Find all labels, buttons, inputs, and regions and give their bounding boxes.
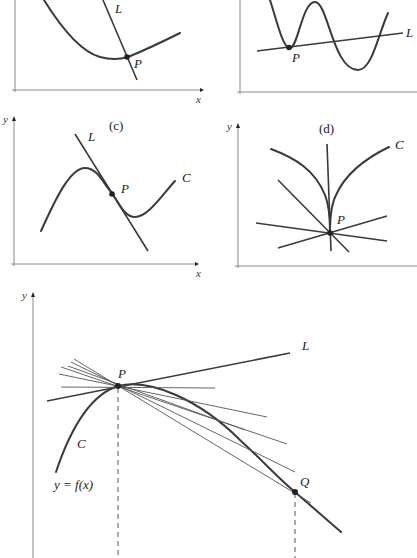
panel-c-P-label: P	[120, 181, 129, 196]
panel-b-curve	[270, 0, 388, 70]
main-C-label: C	[77, 436, 86, 451]
panel-a-curve	[44, 0, 180, 59]
panel-d-title: (d)	[319, 121, 334, 136]
panel-c-x-label: x	[195, 267, 201, 279]
panel-b-L-label: L	[405, 25, 413, 40]
secant-line-4	[71, 362, 295, 472]
main-y-arrow-icon	[31, 292, 35, 297]
main-point-Q	[292, 489, 298, 495]
panel-b-line-L	[257, 33, 403, 51]
main-figure: y P Q L C y = f(x)	[21, 289, 341, 558]
panel-d-y-label: y	[226, 120, 232, 132]
main-Q-label: Q	[300, 474, 310, 489]
panel-d-line-2	[256, 223, 387, 241]
panel-d-C-label: C	[395, 137, 404, 152]
panel-c-x-arrow-icon	[195, 262, 199, 266]
secant-lines	[59, 359, 311, 503]
secant-line-3	[61, 367, 287, 444]
tangent-line-figure: x L P L P y x (c) L P C y (d)	[0, 0, 417, 558]
main-P-label: P	[117, 366, 126, 381]
panel-b: L P	[237, 0, 417, 94]
main-curve-C	[56, 384, 341, 532]
panel-b-point-P	[286, 45, 292, 51]
panel-d: y (d) P C	[226, 120, 417, 268]
secant-line-2	[59, 374, 267, 417]
main-function-label: y = f(x)	[52, 477, 93, 492]
panel-a-x-arrow-icon	[200, 88, 204, 92]
main-tangent-line-L	[47, 353, 290, 401]
panel-a-x-label: x	[195, 93, 201, 105]
panel-a-L-label: L	[114, 1, 122, 16]
panel-c-y-label: y	[2, 113, 8, 125]
panel-c-curve	[41, 168, 175, 231]
panel-a-point-P	[124, 54, 130, 60]
panel-b-P-label: P	[291, 50, 300, 65]
panel-c-C-label: C	[182, 170, 191, 185]
panel-c-y-arrow-icon	[12, 116, 16, 121]
panel-c-point-P	[109, 191, 115, 197]
secant-line-6	[68, 366, 245, 430]
main-point-P	[115, 383, 121, 389]
panel-c-L-label: L	[87, 129, 95, 144]
panel-d-curve-left	[271, 149, 330, 232]
panel-d-P-label: P	[336, 212, 345, 227]
panel-c: y x (c) L P C	[2, 113, 201, 279]
secant-line-1	[61, 387, 215, 388]
panel-c-title: (c)	[109, 118, 123, 133]
panel-a: x L P	[12, 0, 204, 105]
main-y-label: y	[21, 289, 27, 301]
panel-d-point-P	[327, 230, 333, 236]
panel-d-y-arrow-icon	[236, 123, 240, 128]
panel-a-P-label: P	[133, 56, 142, 71]
main-L-label: L	[301, 338, 309, 353]
